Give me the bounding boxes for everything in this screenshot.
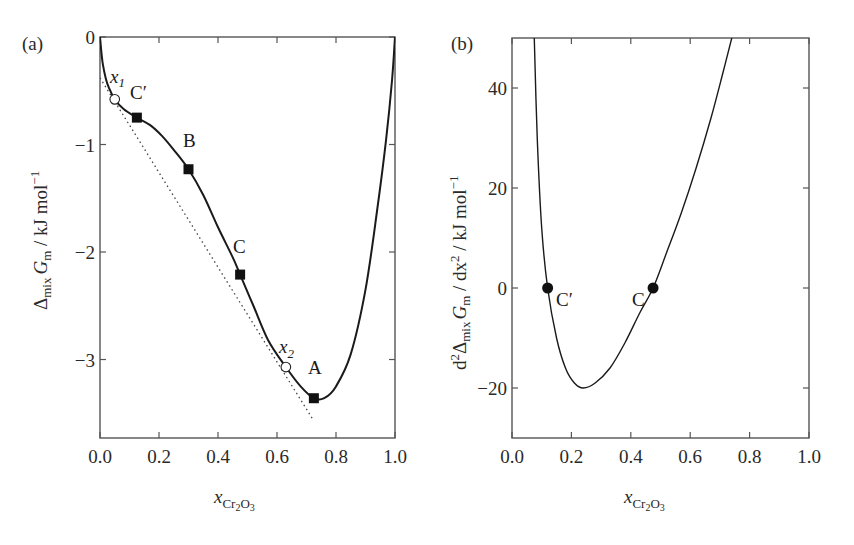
panel-a-label: (a)	[22, 33, 43, 55]
x-tick-label: 0.4	[619, 446, 643, 467]
x-tick-label: 0.2	[560, 446, 584, 467]
point-x2	[281, 362, 291, 372]
figure: (a) 0.00.20.40.60.81.0 0−1−2−3 x1 C′ B C…	[0, 0, 854, 545]
y-tick-label: 40	[488, 78, 507, 99]
panel-b-frame	[512, 38, 809, 438]
panel-b-x-ticks: 0.00.20.40.60.81.0	[500, 38, 821, 467]
annotation-b-c-prime: C′	[556, 289, 573, 310]
x-tick-label: 1.0	[383, 446, 407, 467]
point-A	[309, 393, 319, 403]
x-tick-label: 0.8	[738, 446, 762, 467]
panel-b: (b) 0.00.20.40.60.81.0 40200−20 C′ C d2Δ…	[446, 33, 821, 513]
y-tick-label: −20	[477, 378, 507, 399]
point-C′	[132, 113, 142, 123]
x-tick-label: 0.6	[678, 446, 702, 467]
point-C′	[542, 283, 553, 294]
annotation-x1: x1	[109, 66, 125, 90]
curve-line	[534, 38, 732, 388]
panel-b-x-axis-title: xCr2O3	[623, 486, 665, 513]
x-tick-label: 0.6	[265, 446, 289, 467]
panel-a: (a) 0.00.20.40.60.81.0 0−1−2−3 x1 C′ B C…	[22, 27, 407, 513]
panel-b-series	[534, 38, 732, 388]
x-tick-label: 0.4	[206, 446, 230, 467]
y-tick-label: 0	[86, 27, 96, 48]
x-tick-label: 0.8	[324, 446, 348, 467]
y-tick-label: −2	[75, 242, 95, 263]
panel-a-y-axis-title: ΔmixGm / kJ mol−1	[27, 171, 54, 310]
y-tick-label: 0	[498, 278, 508, 299]
annotation-a: A	[308, 357, 322, 378]
x-tick-label: 0.0	[88, 446, 112, 467]
panel-a-x-axis-title: xCr2O3	[213, 486, 255, 513]
annotation-c: C	[233, 236, 246, 257]
point-C	[648, 283, 659, 294]
point-x1	[110, 95, 120, 105]
panel-b-y-axis-title: d2ΔmixGm / dx2 / kJ mol−1	[446, 176, 473, 370]
y-tick-label: 20	[488, 178, 507, 199]
y-tick-label: −3	[75, 350, 95, 371]
y-tick-label: −1	[75, 135, 95, 156]
panel-b-label: (b)	[451, 33, 473, 55]
annotation-b-c: C	[632, 289, 645, 310]
point-C	[235, 270, 245, 280]
x-tick-label: 0.0	[500, 446, 524, 467]
point-B	[184, 164, 194, 174]
x-tick-label: 1.0	[797, 446, 821, 467]
annotation-c-prime: C′	[130, 82, 147, 103]
annotation-x2: x2	[278, 336, 294, 361]
annotation-b: B	[183, 130, 196, 151]
x-tick-label: 0.2	[147, 446, 171, 467]
panel-b-y-ticks: 40200−20	[477, 78, 809, 399]
